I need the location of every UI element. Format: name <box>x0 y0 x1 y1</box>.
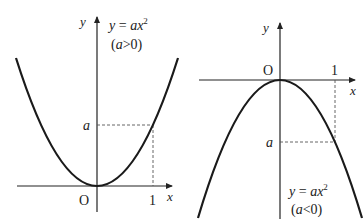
right-equation: y = ax2 <box>287 182 328 199</box>
right-x-axis-label: x <box>349 83 356 98</box>
left-origin-label: O <box>79 193 89 208</box>
left-y-axis-label: y <box>78 14 86 29</box>
right-x-tick-label: 1 <box>331 63 338 78</box>
figure-canvas: y x O 1 a y = ax2 (a>0) y x O 1 a y = ax… <box>0 0 364 219</box>
right-condition: (a<0) <box>291 202 323 218</box>
right-origin-label: O <box>263 63 273 78</box>
left-equation: y = ax2 <box>107 16 148 33</box>
left-x-axis-label: x <box>166 189 173 204</box>
right-graph: y x O 1 a y = ax2 (a<0) <box>198 20 362 219</box>
left-y-tick-label: a <box>83 118 90 133</box>
right-y-tick-label: a <box>266 135 273 150</box>
left-graph: y x O 1 a y = ax2 (a>0) <box>16 14 178 212</box>
left-condition: (a>0) <box>111 37 143 53</box>
right-y-axis-label: y <box>261 20 269 35</box>
left-x-tick-label: 1 <box>149 193 156 208</box>
